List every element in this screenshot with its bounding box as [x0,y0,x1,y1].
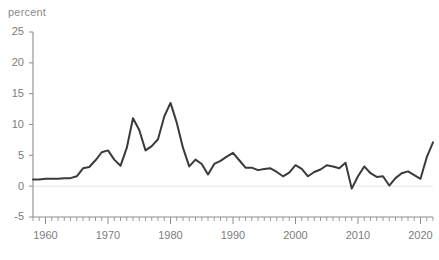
inflation-line-chart: percent -50510152025 1960197019801990200… [0,0,439,260]
x-tick-label: 1960 [33,229,57,241]
x-tick-label: 1970 [96,229,120,241]
y-axis-ticks: -50510152025 [12,25,33,222]
x-tick-label: 2010 [346,229,370,241]
y-tick-label: 10 [12,118,24,130]
x-tick-label: 1990 [221,229,245,241]
y-tick-label: 0 [18,180,24,192]
y-tick-label: 20 [12,56,24,68]
y-tick-label: -5 [14,210,24,222]
x-tick-label: 1980 [158,229,182,241]
x-axis-ticks: 1960197019801990200020102020 [33,217,433,241]
series-line-percent [33,103,433,189]
y-tick-label: 25 [12,25,24,37]
y-tick-label: 15 [12,87,24,99]
chart-plot-area: -50510152025 196019701980199020002010202… [0,0,439,260]
y-tick-label: 5 [18,149,24,161]
x-tick-label: 2000 [283,229,307,241]
x-tick-label: 2020 [408,229,432,241]
